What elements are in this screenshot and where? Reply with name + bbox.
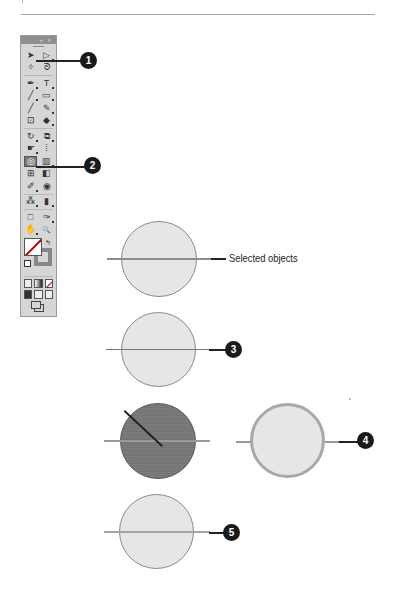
artboard-tool-icon[interactable]: □ [24,212,37,223]
tool-row: ✐ ◉ [21,180,56,193]
callout-5: 5 [223,524,240,541]
draw-inside-icon[interactable] [45,290,53,299]
tool-row: ⊞ ◧ [21,168,56,181]
page-corner-mark [22,0,23,3]
gradient-tool-icon[interactable]: ◧ [40,168,53,179]
callout-2-leader [36,166,86,168]
selected-objects-leader [211,258,226,260]
callout-1: 1 [80,52,97,69]
tool-row: ⁂ ▮ [21,196,56,209]
merged-shape-left-segment[interactable] [236,441,251,443]
gradient-icon[interactable] [34,279,42,288]
draw-normal-icon[interactable] [24,290,32,299]
tool-row: ✋ 🔍 [21,224,56,237]
line-shape-step5[interactable] [104,531,210,533]
callout-1-leader [36,60,82,62]
line-segment-tool-icon[interactable]: ╱ [24,90,37,101]
divider [24,276,53,277]
panel-grip[interactable] [21,44,56,49]
draw-behind-icon[interactable] [34,290,42,299]
swap-fill-stroke-icon[interactable]: ↰ [45,239,51,247]
tool-row: ↻ ⧉ [21,130,56,143]
color-icon[interactable] [24,279,32,288]
divider [24,75,53,76]
merged-shape[interactable] [250,403,325,478]
lasso-tool-icon[interactable]: ᘐ [40,62,53,73]
callout-3: 3 [225,341,242,358]
callout-4: 4 [357,432,374,449]
pen-tool-icon[interactable]: ✒ [24,78,37,89]
column-graph-tool-icon[interactable]: ▮ [40,196,53,207]
callout-4-leader [339,441,359,443]
blend-tool-icon[interactable]: ◉ [40,181,53,192]
hand-tool-icon[interactable]: ✋ [24,224,37,235]
tool-row: ✧ ᘐ [21,62,56,75]
type-tool-icon[interactable]: T [40,78,53,89]
blob-brush-tool-icon[interactable]: ⊡ [24,115,37,126]
panel-title-bar[interactable]: « × [21,36,56,44]
rectangle-tool-icon[interactable]: ▭ [40,90,53,101]
line-shape-step3[interactable] [106,349,210,350]
tool-row: □ ✑ [21,211,56,224]
divider [24,194,53,195]
tool-row: ⊡ ◆ [21,115,56,128]
warp-tool-icon[interactable]: ☛ [24,143,37,154]
tool-row: ╱ ▭ [21,90,56,103]
eyedropper-tool-icon[interactable]: ✐ [24,181,37,192]
free-transform-tool-icon[interactable]: ⁞ [40,143,53,154]
screen-mode-icon[interactable] [34,304,44,312]
fill-swatch[interactable] [24,238,42,256]
scale-tool-icon[interactable]: ⧉ [40,131,53,142]
divider [24,209,53,210]
draw-mode-row [21,289,56,300]
divider [24,128,53,129]
zoom-tool-icon[interactable]: 🔍 [40,224,53,235]
slice-tool-icon[interactable]: ✑ [40,212,53,223]
stray-mark [349,398,351,400]
tool-row: ☛ ⁞ [21,143,56,156]
mesh-tool-icon[interactable]: ⊞ [24,168,37,179]
line-shape-selected[interactable] [107,258,212,260]
color-mode-row [21,278,56,289]
callout-5-leader [209,532,224,534]
rotate-tool-icon[interactable]: ↻ [24,131,37,142]
callout-2: 2 [84,157,101,174]
default-fill-stroke-icon[interactable] [24,260,31,267]
eraser-tool-icon[interactable]: ◆ [40,115,53,126]
fill-stroke-swatches: ↰ [24,238,53,274]
paintbrush-tool-icon[interactable]: ╱ [24,103,37,114]
symbol-sprayer-tool-icon[interactable]: ⁂ [24,196,37,207]
magic-wand-tool-icon[interactable]: ✧ [24,62,37,73]
tool-row: ╱ ✎ [21,102,56,115]
tools-panel: « × ➤ ▷ ✧ ᘐ ✒ T ╱ ▭ ╱ ✎ ⊡ ◆ ↻ ⧉ ☛ ⁞ ◎ ▥ … [20,35,57,317]
collapse-icon[interactable]: « [40,37,43,43]
pencil-tool-icon[interactable]: ✎ [40,103,53,114]
merged-shape-right-segment[interactable] [325,441,340,443]
selected-objects-label: Selected objects [229,252,298,264]
header-rule [21,14,375,15]
none-icon[interactable] [45,279,53,288]
close-icon[interactable]: × [48,37,51,43]
tool-row: ✒ T [21,77,56,90]
screen-mode-row [21,300,56,312]
